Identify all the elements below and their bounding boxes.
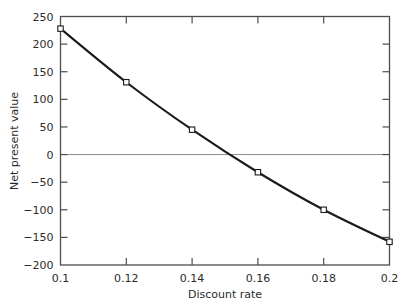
x-tick-label: 0.16 — [246, 272, 271, 285]
x-tick-label: 0.14 — [180, 272, 205, 285]
y-axis-title: Net present value — [8, 92, 21, 190]
x-tick-label: 0.12 — [114, 272, 139, 285]
chart-figure: −200−150−100−50050100150200250 0.10.120.… — [0, 0, 410, 308]
x-axis-title: Discount rate — [188, 288, 262, 301]
npv-vs-discount-rate-chart: −200−150−100−50050100150200250 0.10.120.… — [0, 0, 410, 308]
x-tick-label: 0.18 — [311, 272, 336, 285]
y-tick-label: 200 — [33, 38, 54, 51]
y-tick-label: 150 — [33, 66, 54, 79]
y-tick-label: −200 — [23, 259, 53, 272]
x-tick-label: 0.1 — [52, 272, 70, 285]
x-tick-label: 0.2 — [381, 272, 399, 285]
y-tick-label: −50 — [30, 176, 53, 189]
y-tick-label: 50 — [40, 121, 54, 134]
y-tick-label: 0 — [47, 149, 54, 162]
y-tick-label: 250 — [33, 11, 54, 24]
y-tick-label: −100 — [23, 204, 53, 217]
y-tick-label: 100 — [33, 93, 54, 106]
y-tick-label: −150 — [23, 231, 53, 244]
